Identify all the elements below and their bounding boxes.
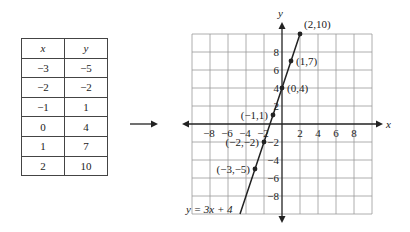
svg-text:−8: −8 — [203, 127, 215, 139]
svg-text:4: 4 — [315, 127, 321, 139]
point-label: (1,7) — [296, 55, 317, 68]
point-label: (−2,−2) — [226, 136, 260, 149]
svg-text:8: 8 — [274, 46, 280, 58]
point-label: (2,10) — [304, 18, 331, 31]
svg-text:6: 6 — [274, 64, 280, 76]
x-axis-label: x — [385, 118, 391, 130]
svg-text:8: 8 — [351, 127, 357, 139]
right-arrow-icon — [130, 121, 158, 128]
svg-text:4: 4 — [274, 82, 280, 94]
point-label: (0,4) — [287, 82, 308, 95]
diagram-canvas: x y −8 −6 −4 −2 2 4 6 8 8 6 4 2 −2 −4 −6… — [0, 0, 410, 232]
svg-text:−2: −2 — [267, 136, 279, 148]
point-label: (−1,1) — [241, 109, 269, 122]
svg-text:2: 2 — [297, 127, 303, 139]
equation-label: y = 3x + 4 — [185, 203, 233, 215]
svg-text:−8: −8 — [267, 190, 279, 202]
svg-text:−4: −4 — [267, 154, 279, 166]
point-label: (−3,−5) — [217, 163, 251, 176]
y-axis-label: y — [277, 7, 283, 19]
svg-text:6: 6 — [333, 127, 339, 139]
svg-text:−6: −6 — [267, 172, 279, 184]
